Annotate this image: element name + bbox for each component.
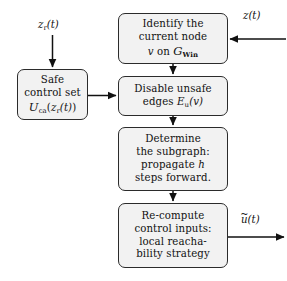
signal-label-u-tilde: ~u(t) [241, 214, 260, 225]
determine-line-2: the subgraph: [136, 146, 210, 159]
recompute-line-2: control inputs: [134, 223, 211, 236]
identify-line-2: current node [139, 31, 207, 44]
safe-line-1: Safe [41, 74, 64, 87]
identify-current-node-box[interactable]: Identify the current node v on GWin [118, 13, 228, 64]
identify-line-1: Identify the [142, 18, 203, 31]
safe-arg-time: (t) [60, 102, 72, 113]
u-var: ~u [241, 214, 248, 225]
disable-line-1: Disable unsafe [134, 83, 211, 96]
flowchart-diagram: Identify the current node v on GWin Safe… [0, 0, 287, 281]
safe-control-set-box[interactable]: Safe control set Uca(zr(t)) [17, 69, 88, 120]
disable-edges-word: edges [143, 96, 174, 107]
disable-edges-symbol: E [177, 96, 185, 107]
recompute-line-3: local reacha- [139, 236, 207, 249]
safe-line-3: Uca(zr(t)) [29, 100, 76, 116]
signal-label-zr: zr(t) [38, 19, 59, 32]
determine-subgraph-box[interactable]: Determine the subgraph: propagate h step… [118, 127, 228, 191]
identify-graph-symbol: G [173, 44, 182, 58]
safe-line-2: control set [24, 87, 80, 100]
identify-line-3: v on GWin [148, 44, 198, 60]
identify-graph-subscript: Win [183, 49, 199, 58]
signal-label-z: z(t) [243, 10, 260, 21]
determine-line-1: Determine [145, 133, 201, 146]
identify-on-word: on [157, 46, 170, 57]
recompute-line-4: bility strategy [136, 248, 210, 261]
disable-unsafe-edges-box[interactable]: Disable unsafe edges Eu(v) [118, 76, 228, 116]
safe-set-symbol: U [29, 100, 39, 114]
determine-propagate-word: propagate [141, 159, 195, 170]
zr-arg: (t) [47, 19, 59, 30]
recompute-line-1: Re-compute [142, 210, 205, 223]
determine-steps-symbol: h [198, 159, 205, 170]
safe-paren-close: ) [72, 102, 76, 113]
recompute-control-inputs-box[interactable]: Re-compute control inputs: local reacha-… [118, 203, 228, 268]
u-arg: (t) [248, 214, 260, 225]
safe-set-subscript: ca [39, 106, 47, 114]
disable-line-2: edges Eu(v) [143, 96, 203, 110]
determine-line-3: propagate h [141, 159, 205, 172]
z-arg: (t) [248, 10, 260, 21]
u-tilde-accent: ~ [240, 209, 248, 219]
determine-line-4: steps forward. [135, 172, 211, 185]
identify-node-var: v [148, 46, 154, 57]
disable-edges-arg: (v) [189, 96, 203, 107]
